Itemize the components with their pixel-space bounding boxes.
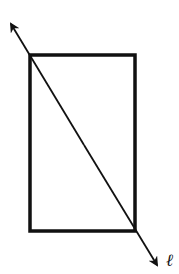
line-l bbox=[11, 24, 84, 145]
line-l-lower bbox=[84, 145, 157, 265]
line-label: ℓ bbox=[166, 250, 173, 271]
diagram-canvas bbox=[0, 0, 179, 274]
